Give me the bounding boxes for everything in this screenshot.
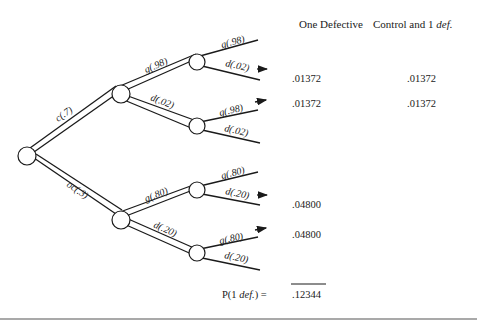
total-label: P(1 def.) = bbox=[222, 289, 267, 301]
arrow-icon bbox=[255, 100, 266, 102]
value-one-defective: .01372 bbox=[292, 73, 321, 84]
arrow-icon bbox=[255, 228, 266, 230]
label-leaf: g(.80) bbox=[218, 230, 245, 247]
label-oc: oc(.3) bbox=[64, 179, 91, 203]
value-control: .01372 bbox=[407, 98, 436, 109]
label-oc-g: g(.80) bbox=[143, 185, 170, 205]
root-node bbox=[18, 147, 36, 165]
header-control-1-def: Control and 1 def. bbox=[373, 18, 452, 30]
value-control: .01372 bbox=[407, 73, 436, 84]
value-one-defective: .01372 bbox=[292, 98, 321, 109]
header-one-defective: One Defective bbox=[299, 18, 363, 30]
label-leaf: d(.02) bbox=[223, 122, 250, 139]
label-c: c(.7) bbox=[53, 104, 76, 125]
node-oc-d bbox=[189, 245, 205, 261]
node-c-d bbox=[189, 118, 205, 134]
label-leaf: g(.80) bbox=[220, 164, 247, 182]
node-c bbox=[112, 85, 130, 103]
label-leaf: g(.98) bbox=[218, 102, 245, 119]
value-one-defective: .04800 bbox=[292, 229, 321, 240]
node-c-g bbox=[189, 54, 205, 70]
probability-tree-diagram: c(.7) oc(.3) g(.98) d(.02) g(.80) d(.20)… bbox=[0, 0, 477, 322]
selection-arrows bbox=[255, 69, 267, 230]
total-value: .12344 bbox=[292, 289, 322, 300]
label-oc-d: d(.20) bbox=[152, 219, 180, 240]
label-leaf: g(.98) bbox=[220, 33, 247, 51]
value-one-defective: .04800 bbox=[292, 199, 321, 210]
node-oc bbox=[112, 211, 130, 229]
branch-c bbox=[30, 86, 122, 152]
node-oc-g bbox=[189, 182, 205, 198]
